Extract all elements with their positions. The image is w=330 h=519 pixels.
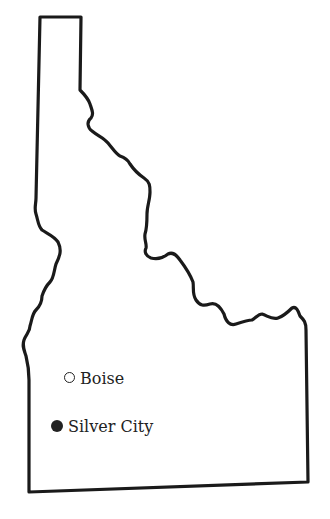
filled-circle-icon	[51, 420, 63, 432]
state-border	[23, 17, 308, 492]
idaho-state-outline	[0, 0, 330, 519]
place-label-silver-city: Silver City	[68, 417, 153, 436]
place-label-boise: Boise	[80, 369, 124, 388]
open-circle-icon	[64, 372, 75, 383]
